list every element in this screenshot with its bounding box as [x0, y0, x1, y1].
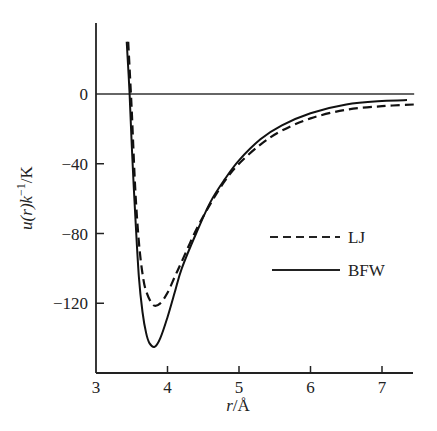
y-axis-title: u(r)k−1/K: [14, 165, 36, 229]
plot-area: [96, 42, 414, 347]
y-tick-label: −120: [53, 294, 88, 313]
x-tick-label: 6: [306, 378, 315, 397]
legend-bfw-label: BFW: [348, 261, 386, 280]
x-tick-label: 4: [163, 378, 172, 397]
y-tick-label: −40: [61, 155, 88, 174]
x-tick-label: 3: [92, 378, 101, 397]
series-bfw-line: [127, 42, 407, 347]
x-tick-label: 5: [235, 378, 244, 397]
legend: LJ BFW: [270, 228, 386, 280]
legend-lj-label: LJ: [348, 228, 365, 247]
x-axis-title: r/Å: [226, 396, 250, 415]
potential-energy-chart: 34567 0−40−80−120 r/Å u(r)k−1/K LJ BFW: [0, 0, 437, 431]
y-tick-label: 0: [80, 85, 89, 104]
x-ticks: 34567: [92, 366, 387, 397]
y-tick-label: −80: [61, 225, 88, 244]
x-tick-label: 7: [378, 378, 387, 397]
